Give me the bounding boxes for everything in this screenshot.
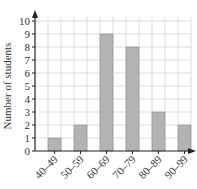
- x-tick-label: 40–49: [32, 153, 60, 181]
- y-tick-label: 3: [25, 106, 31, 118]
- x-tick-label: 50–59: [58, 153, 86, 181]
- y-tick-label: 9: [25, 28, 31, 40]
- y-tick-label: 5: [25, 80, 31, 92]
- x-axis-arrow-icon: [188, 148, 196, 154]
- y-tick-label: 1: [25, 132, 31, 144]
- y-tick-label: 8: [25, 41, 31, 53]
- y-tick-label: 7: [25, 54, 31, 66]
- y-tick-labels: 012345678910: [19, 15, 35, 157]
- y-axis-arrow-icon: [32, 10, 38, 18]
- x-tick-label: 60–69: [84, 153, 112, 181]
- bar-40–49: [48, 138, 61, 151]
- x-tick-labels: 40–4950–5960–6970–7980–8990–99: [32, 151, 190, 181]
- y-tick-label: 10: [19, 15, 31, 27]
- bar-80–89: [152, 112, 165, 151]
- y-axis-label: Number of students: [1, 43, 13, 130]
- bar-60–69: [100, 34, 113, 151]
- y-tick-label: 0: [25, 145, 31, 157]
- bar-50–59: [74, 125, 87, 151]
- x-tick-label: 80–89: [136, 153, 164, 181]
- y-tick-label: 4: [25, 93, 31, 105]
- x-tick-label: 70–79: [110, 153, 138, 181]
- bars: [48, 34, 191, 151]
- bar-90–99: [178, 125, 191, 151]
- bar-70–79: [126, 47, 139, 151]
- histogram-chart: 012345678910 40–4950–5960–6970–7980–8990…: [0, 0, 197, 189]
- y-tick-label: 6: [25, 67, 31, 79]
- y-tick-label: 2: [25, 119, 31, 131]
- axes: [32, 10, 196, 154]
- x-tick-label: 90–99: [162, 153, 190, 181]
